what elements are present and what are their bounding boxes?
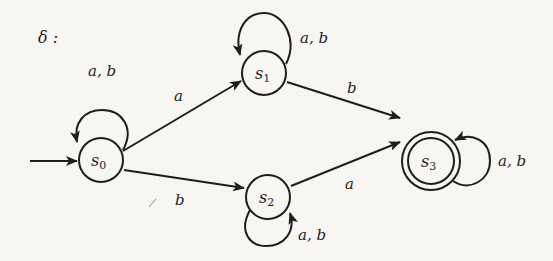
state-s2-sub: 2 <box>267 196 274 209</box>
state-s3-sub: 3 <box>429 160 436 173</box>
state-s0-sub: 0 <box>99 159 106 172</box>
automaton-diagram: δ : s0 a, b s1 a, b s2 a, b s3 a, b a b … <box>0 0 553 261</box>
state-s1-sub: 1 <box>263 72 270 85</box>
state-s2: s2 <box>246 175 290 219</box>
svg-text:s0: s0 <box>91 151 106 172</box>
svg-text:s1: s1 <box>255 64 270 85</box>
state-s3-name: s <box>421 152 429 171</box>
loop-s3 <box>453 137 490 185</box>
state-s1-name: s <box>255 64 263 83</box>
label-loop-s1: a, b <box>300 29 328 47</box>
delta-title: δ : <box>38 28 58 47</box>
loop-s2 <box>245 210 291 246</box>
svg-text:s3: s3 <box>421 152 436 173</box>
state-s0-name: s <box>91 151 99 170</box>
label-s0-s2: b <box>175 191 185 209</box>
svg-text:s2: s2 <box>259 188 274 209</box>
label-s1-s3: b <box>347 79 357 97</box>
state-s0: s0 <box>79 138 123 182</box>
stray-mark <box>149 199 156 207</box>
label-loop-s2: a, b <box>298 226 326 244</box>
edge-s0-s2 <box>124 170 244 188</box>
loop-s1 <box>238 13 290 64</box>
label-loop-s3: a, b <box>498 152 526 170</box>
state-s1: s1 <box>242 51 286 95</box>
label-loop-s0: a, b <box>88 62 116 80</box>
label-s0-s1: a <box>174 87 183 105</box>
state-s3: s3 <box>402 132 460 190</box>
edge-s1-s3 <box>287 82 400 118</box>
loop-s0 <box>76 110 127 150</box>
state-s2-name: s <box>259 188 267 207</box>
label-s2-s3: a <box>345 175 354 193</box>
